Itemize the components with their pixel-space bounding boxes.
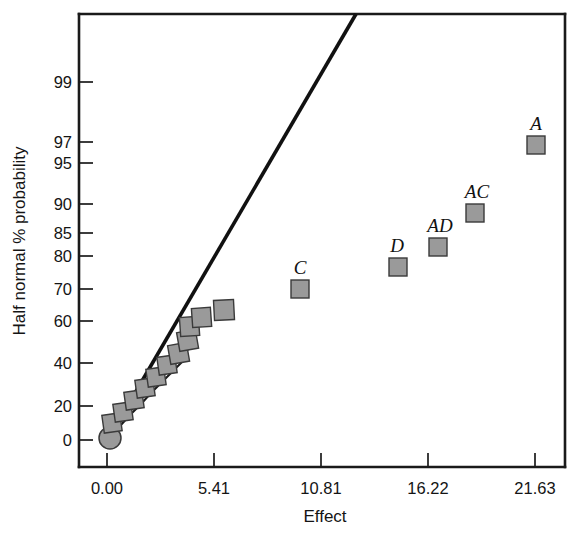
y-tick-label-20: 20 [54, 397, 72, 415]
y-tick-label-97: 97 [54, 133, 72, 151]
data-point-cluster-10 [191, 307, 211, 327]
x-tick-label-2: 10.81 [300, 479, 341, 497]
y-tick-label-80: 80 [54, 247, 72, 265]
data-point-AD [429, 238, 447, 256]
data-point-cluster-11 [213, 299, 234, 320]
x-axis-ticks [107, 453, 535, 467]
reference-line [107, 14, 356, 441]
plot-canvas: 0 20 40 60 70 80 85 90 95 97 99 0.00 5.4… [0, 0, 581, 545]
x-axis-title: Effect [303, 507, 346, 526]
y-axis-ticks [79, 82, 93, 440]
point-labels: C D AD AC A [294, 113, 543, 278]
data-point-AC [466, 204, 484, 222]
axis-frame [79, 14, 565, 467]
y-axis-title: Half normal % probability [10, 146, 29, 335]
point-label-A: A [528, 113, 542, 134]
x-tick-label-4: 21.63 [514, 479, 555, 497]
y-tick-label-60: 60 [54, 312, 72, 330]
y-tick-label-85: 85 [54, 224, 72, 242]
data-point-C [291, 280, 309, 298]
data-point-D [389, 258, 407, 276]
point-label-AC: AC [463, 181, 490, 202]
y-tick-label-70: 70 [54, 280, 72, 298]
y-axis-tick-labels: 0 20 40 60 70 80 85 90 95 97 99 [54, 73, 72, 449]
y-tick-label-99: 99 [54, 73, 72, 91]
x-tick-label-0: 0.00 [91, 479, 123, 497]
labeled-markers [291, 136, 545, 298]
point-label-D: D [389, 235, 404, 256]
point-label-AD: AD [425, 215, 453, 236]
y-tick-label-40: 40 [54, 354, 72, 372]
x-tick-label-1: 5.41 [198, 479, 230, 497]
y-tick-label-95: 95 [54, 154, 72, 172]
data-point-A [527, 136, 545, 154]
cluster-markers [102, 299, 235, 433]
point-label-C: C [294, 257, 307, 278]
x-axis-tick-labels: 0.00 5.41 10.81 16.22 21.63 [91, 479, 556, 497]
half-normal-probability-plot: 0 20 40 60 70 80 85 90 95 97 99 0.00 5.4… [0, 0, 581, 545]
y-tick-label-90: 90 [54, 195, 72, 213]
x-tick-label-3: 16.22 [407, 479, 448, 497]
y-tick-label-0: 0 [63, 431, 72, 449]
